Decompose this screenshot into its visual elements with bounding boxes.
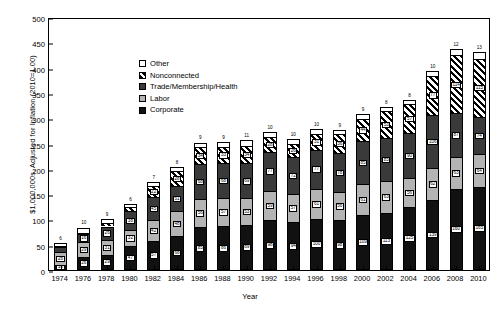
- x-tick-mark: [410, 266, 411, 270]
- bar-1984[interactable]: 684851288: [170, 17, 183, 270]
- bar-1992[interactable]: 9859772810: [263, 17, 276, 270]
- segment-value-label: 32: [126, 235, 134, 242]
- y-tick-label: 200: [32, 166, 49, 175]
- x-tick-label: 2000: [354, 274, 370, 283]
- segment-value-label: 63: [382, 194, 390, 201]
- legend-label-trade: Trade/Membership/Health: [150, 83, 238, 91]
- bar-1980[interactable]: 4732386: [124, 17, 137, 270]
- bar-2010[interactable]: 165647411513: [473, 17, 486, 270]
- segment-value-label: 29: [103, 259, 111, 266]
- bar-segment-trade: 26: [101, 227, 114, 240]
- bar-segment-labor: 57: [217, 198, 230, 227]
- bar-2000[interactable]: 1096185449: [356, 17, 369, 270]
- bar-segment-trade: 87: [450, 113, 463, 157]
- y-tick-label: 0: [41, 268, 49, 277]
- bar-2006[interactable]: 139621067710: [426, 17, 439, 270]
- bar-segment-corporate: 89: [240, 225, 253, 270]
- bar-segment-corporate: 85: [194, 227, 207, 270]
- segment-value-label: 29: [80, 247, 88, 254]
- y-tick-label: 400: [32, 65, 49, 74]
- bar-segment-nonconnected: 77: [426, 76, 439, 115]
- x-tick-mark: [223, 266, 224, 270]
- segment-value-label: 63: [452, 170, 460, 177]
- segment-value-label: 31: [312, 139, 320, 146]
- bar-segment-labor: 56: [403, 178, 416, 206]
- bar-total-label: 12: [450, 43, 463, 48]
- bar-total-label: 9: [101, 213, 114, 218]
- bar-total-label: 7: [147, 176, 160, 181]
- segment-value-label: 85: [359, 160, 367, 167]
- bar-segment-labor: 63: [450, 157, 463, 189]
- segment-value-label: 77: [266, 168, 274, 175]
- bar-segment-labor: 62: [426, 168, 439, 199]
- bar-total-label: 10: [287, 133, 300, 138]
- bar-1974[interactable]: 10266: [54, 17, 67, 270]
- segment-value-label: 100: [311, 241, 322, 248]
- segment-value-label: 57: [405, 116, 413, 123]
- bar-segment-corporate: 160: [450, 189, 463, 270]
- bar-1986[interactable]: 855668349: [194, 17, 207, 270]
- bar-segment-corporate: 100: [310, 219, 323, 270]
- bar-segment-corporate: 98: [333, 220, 346, 270]
- bar-segment-trade: 16: [77, 234, 90, 242]
- bar-2008[interactable]: 160638711412: [450, 17, 463, 270]
- bar-segment-other: [77, 228, 90, 233]
- bars-container: 1026626291610293126947323865742452276848…: [49, 19, 489, 270]
- x-tick-label: 2002: [377, 274, 393, 283]
- bar-1988[interactable]: 865768339: [217, 17, 230, 270]
- y-tick-label: 100: [32, 217, 49, 226]
- segment-value-label: 64: [475, 168, 483, 175]
- bar-segment-other: [380, 107, 393, 111]
- segment-value-label: 45: [150, 206, 158, 213]
- bar-segment-corporate: 113: [380, 213, 393, 270]
- y-tick-label: 50: [37, 242, 49, 251]
- x-tick-label: 1980: [121, 274, 137, 283]
- bar-1978[interactable]: 2931269: [101, 17, 114, 270]
- bar-segment-trade: 68: [194, 164, 207, 198]
- segment-value-label: 115: [474, 85, 485, 92]
- x-tick-label: 2006: [424, 274, 440, 283]
- bar-1996[interactable]: 10061773110: [310, 17, 323, 270]
- segment-value-label: 68: [196, 179, 204, 186]
- bar-segment-trade: 68: [217, 163, 230, 197]
- segment-value-label: 106: [427, 139, 438, 146]
- x-tick-label: 1982: [144, 274, 160, 283]
- x-tick-label: 2008: [447, 274, 463, 283]
- bar-segment-other: [473, 52, 486, 59]
- segment-value-label: 33: [219, 152, 227, 159]
- bar-total-label: 8: [403, 94, 416, 99]
- segment-value-label: 139: [427, 232, 438, 239]
- segment-value-label: 114: [451, 82, 462, 89]
- x-tick-label: 2004: [400, 274, 416, 283]
- bar-segment-other: [170, 167, 183, 171]
- bar-1998[interactable]: 985678369: [333, 17, 346, 270]
- bar-total-label: 9: [217, 136, 230, 141]
- bar-segment-labor: 64: [473, 154, 486, 186]
- segment-value-label: 51: [173, 196, 181, 203]
- y-tick-label: 150: [32, 192, 49, 201]
- bar-segment-other: [101, 219, 114, 224]
- bar-segment-other: [263, 132, 276, 137]
- bar-segment-other: [54, 243, 67, 246]
- bar-2002[interactable]: 1136385538: [380, 17, 393, 270]
- bar-1994[interactable]: 9457722610: [287, 17, 300, 270]
- bar-1976[interactable]: 26291610: [77, 17, 90, 270]
- bar-segment-trade: 90: [403, 133, 416, 179]
- bar-segment-labor: 61: [310, 189, 323, 220]
- bar-segment-other: [426, 71, 439, 76]
- bar-total-label: 10: [77, 221, 90, 226]
- legend-label-labor: Labor: [150, 95, 169, 103]
- bar-1982[interactable]: 574245227: [147, 17, 160, 270]
- bar-1990[interactable]: 8953693411: [240, 17, 253, 270]
- bar-segment-nonconnected: 34: [194, 147, 207, 164]
- legend-label-corporate: Corporate: [150, 106, 184, 114]
- plot-area: 050100150200250300350400450500 102662629…: [48, 18, 490, 271]
- x-tick-mark: [456, 266, 457, 270]
- bar-segment-labor: 56: [194, 199, 207, 227]
- bar-segment-nonconnected: 115: [473, 59, 486, 117]
- x-tick-mark: [317, 266, 318, 270]
- segment-value-label: 78: [336, 170, 344, 177]
- segment-value-label: 59: [266, 203, 274, 210]
- bar-2004[interactable]: 1255690578: [403, 17, 416, 270]
- bar-segment-other: [356, 114, 369, 119]
